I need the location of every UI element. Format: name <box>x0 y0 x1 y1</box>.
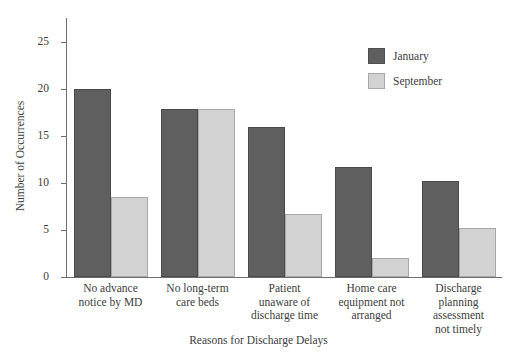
bar-september-3[interactable] <box>285 214 322 277</box>
category-label-3: Patientunaware ofdischarge time <box>241 282 328 323</box>
category-label-line: Home care <box>328 282 415 296</box>
bar-group-1 <box>74 18 148 277</box>
bar-group-3 <box>248 18 322 277</box>
bar-september-2[interactable] <box>198 109 235 277</box>
bar-january-4[interactable] <box>335 167 372 277</box>
category-label-1: No advancenotice by MD <box>67 282 154 309</box>
y-tick-label: 20 <box>27 83 49 95</box>
bar-january-3[interactable] <box>248 127 285 277</box>
category-label-2: No long-termcare beds <box>154 282 241 309</box>
category-label-line: Discharge <box>415 282 502 296</box>
category-label-line: discharge time <box>241 309 328 323</box>
category-label-5: Dischargeplanningassessmentnot timely <box>415 282 502 336</box>
y-tick-label: 25 <box>27 36 49 48</box>
bar-january-5[interactable] <box>422 181 459 277</box>
bar-chart: Number of Occurrences 0510152025 No adva… <box>0 0 517 353</box>
category-label-line: arranged <box>328 309 415 323</box>
y-tick-mark <box>61 277 66 278</box>
legend-item-january: January <box>368 48 442 64</box>
category-label-line: care beds <box>154 296 241 310</box>
x-axis-title: Reasons for Discharge Delays <box>0 334 517 346</box>
x-axis-line <box>66 277 502 278</box>
category-label-line: notice by MD <box>67 296 154 310</box>
y-tick-label: 15 <box>27 130 49 142</box>
legend-swatch-january-icon <box>368 48 385 64</box>
legend-label-september: September <box>393 75 442 87</box>
category-label-line: Patient <box>241 282 328 296</box>
y-tick-mark <box>61 42 66 43</box>
category-label-line: No advance <box>67 282 154 296</box>
y-tick-mark <box>61 230 66 231</box>
bar-september-5[interactable] <box>459 228 496 277</box>
category-label-4: Home careequipment notarranged <box>328 282 415 323</box>
category-label-line: No long-term <box>154 282 241 296</box>
bar-january-1[interactable] <box>74 89 111 277</box>
legend-item-september: September <box>368 73 442 89</box>
category-label-line: equipment not <box>328 296 415 310</box>
legend-label-january: January <box>393 50 429 62</box>
bar-september-1[interactable] <box>111 197 148 277</box>
y-tick-mark <box>61 183 66 184</box>
y-tick-mark <box>61 89 66 90</box>
legend: January September <box>368 48 442 98</box>
category-label-line: unaware of <box>241 296 328 310</box>
category-label-line: planning <box>415 296 502 310</box>
bar-september-4[interactable] <box>372 258 409 277</box>
bar-january-2[interactable] <box>161 109 198 277</box>
bar-group-2 <box>161 18 235 277</box>
y-axis-title: Number of Occurrences <box>14 56 26 256</box>
y-tick-label: 0 <box>27 271 49 283</box>
category-label-line: assessment <box>415 309 502 323</box>
y-tick-label: 5 <box>27 224 49 236</box>
y-tick-mark <box>61 136 66 137</box>
y-tick-label: 10 <box>27 177 49 189</box>
legend-swatch-september-icon <box>368 73 385 89</box>
